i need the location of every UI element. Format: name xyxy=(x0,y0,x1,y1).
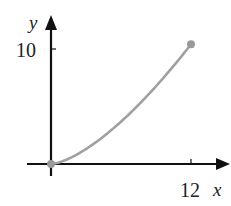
y-axis-arrow-icon xyxy=(45,15,57,30)
x-axis-label: x xyxy=(212,179,222,200)
x-tick-label-12: 12 xyxy=(180,179,200,201)
y-axis-label: y xyxy=(27,12,38,33)
chart: y 10 12 x xyxy=(0,0,231,206)
y-tick-label-10: 10 xyxy=(16,39,36,61)
end-point xyxy=(187,40,195,48)
origin-point xyxy=(47,160,55,168)
x-axis-arrow-icon xyxy=(216,158,230,170)
data-curve xyxy=(51,44,191,164)
